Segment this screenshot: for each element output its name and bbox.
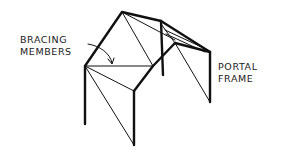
bracing-members-label: BRACING MEMBERS [20,34,72,58]
front-right-rafter [134,43,175,91]
bracing-label-line2: MEMBERS [20,46,72,58]
bracing-members [85,12,210,145]
wall-brace-diag [85,66,134,145]
portal-frames [85,12,210,145]
portal-frame-label: PORTAL FRAME [218,61,258,85]
interior-post [161,21,163,75]
front-portal-frame [85,12,161,124]
portal-label-line2: FRAME [218,73,258,85]
diagram-canvas: BRACING MEMBERS PORTAL FRAME [0,0,294,163]
bracing-label-line1: BRACING [20,34,72,46]
portal-label-line1: PORTAL [218,61,258,73]
